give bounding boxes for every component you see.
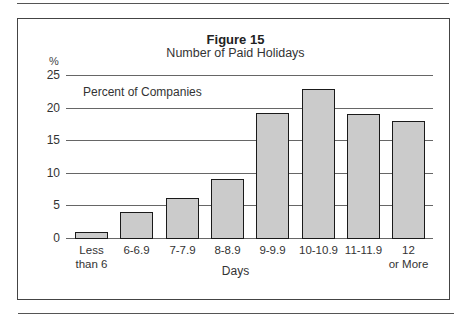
bar xyxy=(256,113,289,239)
y-tick-label: 10 xyxy=(38,166,60,180)
y-axis-label: % xyxy=(49,55,59,67)
y-tick-label: 25 xyxy=(38,68,60,82)
series-label: Percent of Companies xyxy=(83,85,202,99)
bar xyxy=(166,198,199,239)
y-tick-label: 0 xyxy=(38,231,60,245)
bar xyxy=(302,89,335,239)
bar xyxy=(75,232,108,239)
bar xyxy=(347,114,380,239)
y-tick-label: 5 xyxy=(38,198,60,212)
bar xyxy=(120,212,153,239)
top-rule xyxy=(17,3,449,4)
x-axis-label: Days xyxy=(0,264,471,278)
gridline xyxy=(66,75,433,76)
gridline xyxy=(66,108,433,109)
x-tick-line: 12 xyxy=(379,243,439,257)
y-tick-label: 15 xyxy=(38,133,60,147)
bar xyxy=(392,121,425,239)
chart-subtitle: Number of Paid Holidays xyxy=(0,46,471,60)
chart-title: Figure 15 xyxy=(0,32,471,47)
y-tick-label: 20 xyxy=(38,101,60,115)
bar xyxy=(211,179,244,239)
bottom-rule xyxy=(18,313,454,314)
